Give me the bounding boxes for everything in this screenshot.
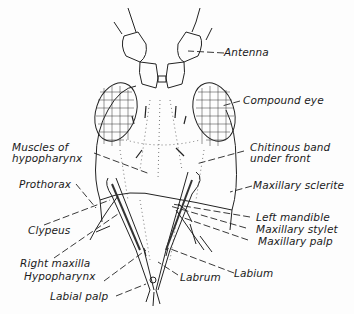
label-chitinous-band-line2: under front (250, 153, 310, 164)
label-left-mandible: Left mandible (256, 212, 330, 223)
label-maxillary-stylet: Maxillary stylet (256, 224, 338, 235)
label-prothorax: Prothorax (19, 179, 71, 190)
compound-eye-left (88, 77, 145, 146)
insect-head-diagram: Antenna Compound eye Muscles of hypophar… (0, 0, 354, 314)
label-hypopharynx: Hypopharynx (24, 271, 95, 282)
mouthparts-drawing (90, 172, 212, 306)
label-compound-eye: Compound eye (243, 95, 324, 106)
label-right-maxilla: Right maxilla (20, 258, 90, 269)
label-labial-palp: Labial palp (50, 291, 108, 302)
label-maxillary-sclerite: Maxillary sclerite (253, 180, 344, 191)
antenna-drawing (114, 8, 212, 88)
label-labrum: Labrum (180, 272, 221, 283)
head-capsule (96, 86, 237, 230)
label-muscles-of-hypopharynx-line2: hypopharynx (12, 153, 82, 164)
label-clypeus: Clypeus (28, 225, 70, 236)
label-labium: Labium (234, 268, 273, 279)
label-antenna: Antenna (224, 47, 269, 58)
label-maxillary-palp: Maxillary palp (258, 236, 333, 247)
